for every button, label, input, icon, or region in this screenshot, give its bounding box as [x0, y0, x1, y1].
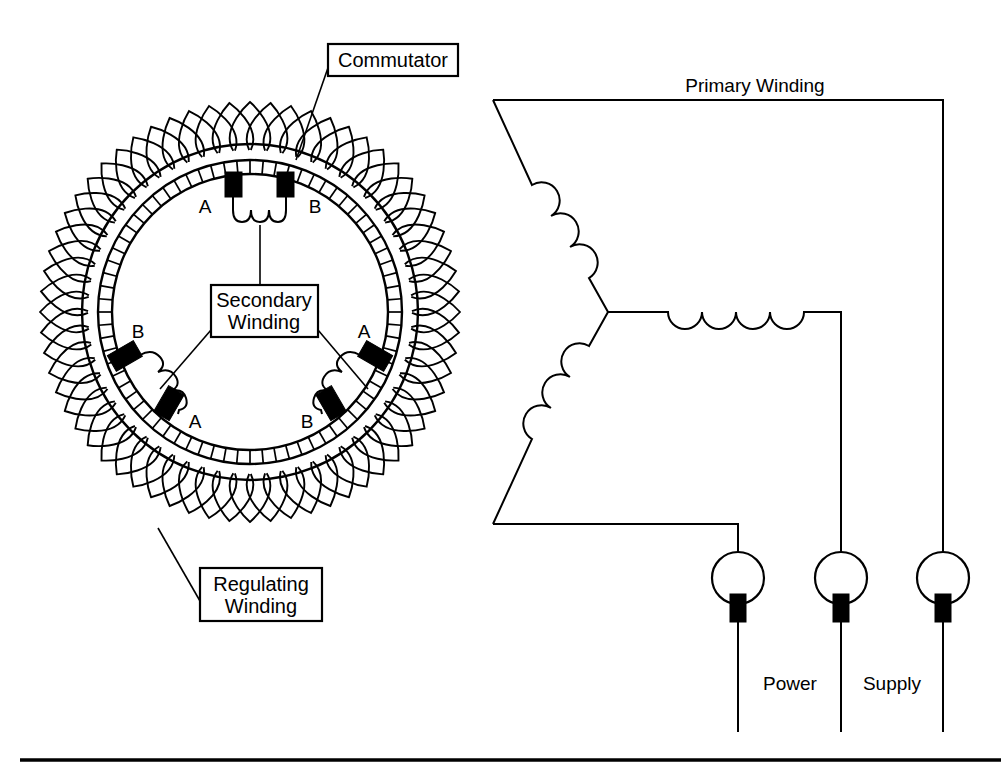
regulating-winding-loop [101, 414, 147, 460]
commutator-segment-tick [356, 214, 367, 223]
winding-arm-upper-left [493, 100, 608, 312]
commutator-segment-tick [125, 225, 136, 233]
commutator-segment-tick [262, 449, 263, 463]
commutator-segment-tick [308, 437, 314, 450]
commutator-segment-tick [386, 336, 400, 338]
commutator-segment-tick [387, 324, 401, 325]
commutator-segment-tick [163, 425, 171, 436]
commutator-segment-tick [274, 448, 276, 462]
primary-bottom-bus [493, 524, 738, 552]
commutator-segment-tick [186, 174, 192, 187]
commutator-segment-tick [329, 187, 337, 198]
commutator-segment-tick [143, 410, 153, 420]
commutator-segment-tick [375, 248, 388, 254]
commutator-segment-tick [363, 391, 374, 399]
commutator-segment-tick [356, 401, 367, 410]
leader-secondary-left [160, 330, 211, 389]
commutator-segment-tick [198, 169, 203, 182]
commutator-segment-tick [319, 180, 326, 192]
terminal-right [917, 552, 969, 732]
commutator-label: Commutator [338, 49, 448, 71]
commutator-segment-tick [387, 299, 401, 300]
commutator-segment-tick [143, 205, 153, 215]
regulating-winding-loop [352, 163, 398, 209]
label-box-commutator: Commutator [328, 44, 458, 76]
commutator-segment-tick [348, 410, 358, 420]
commutator-segment-tick [211, 445, 215, 459]
regulating-winding-loop [352, 414, 398, 460]
commutator-segment-tick [103, 348, 117, 352]
regulating-winding-loop [101, 163, 147, 209]
commutator-segment-tick [329, 425, 337, 436]
commutator-segment-tick [112, 248, 125, 254]
primary-top-bus [493, 100, 943, 552]
secondary-label-line1: Secondary [216, 289, 312, 311]
schematic-svg: A B B A A B Commutator [0, 0, 1001, 774]
terminal-middle-block [833, 594, 849, 622]
commutator-segment-tick [118, 381, 130, 388]
supply-label: Supply [863, 673, 922, 694]
commutator-segment-tick [286, 445, 290, 459]
brush-letter-lr-b: B [301, 411, 314, 432]
commutator-segment-tick [174, 432, 181, 444]
commutator-segment-tick [211, 165, 215, 179]
commutator-segment-tick [107, 260, 120, 265]
winding-arm-lower-left [493, 312, 608, 524]
commutator-segment-tick [174, 180, 181, 192]
commutator-segment-tick [125, 391, 136, 399]
brush-letter-ll-b: B [132, 321, 145, 342]
commutator-segment-tick [100, 336, 114, 338]
commutator-segment-tick [103, 273, 117, 277]
commutator-segment-tick [297, 442, 302, 455]
regulating-label-line1: Regulating [213, 573, 309, 595]
commutator-segment-tick [370, 381, 382, 388]
brush-block-lr-a [358, 341, 393, 372]
primary-winding-label: Primary Winding [685, 75, 824, 96]
commutator-segment-tick [118, 236, 130, 243]
commutator-segment-tick [339, 418, 348, 429]
commutator-segment-tick [380, 260, 393, 265]
terminal-left [712, 552, 764, 732]
brush-letter-top-b: B [309, 196, 322, 217]
commutator-segment-tick [198, 442, 203, 455]
commutator-segment-tick [186, 437, 192, 450]
commutator-segment-tick [308, 174, 314, 187]
commutator-segment-tick [99, 324, 113, 325]
commutator-segment-tick [363, 225, 374, 233]
winding-arm-horizontal [608, 312, 841, 552]
commutator-segment-tick [134, 214, 145, 223]
commutator-segment-tick [112, 370, 125, 376]
commutator-segment-tick [134, 401, 145, 410]
secondary-coil-top [233, 197, 286, 222]
regulating-label-line2: Winding [225, 595, 297, 617]
commutator-segment-tick [339, 196, 348, 207]
commutator-segment-tick [100, 286, 114, 288]
commutator-segment-tick [370, 236, 382, 243]
diagram-canvas: A B B A A B Commutator [0, 0, 1001, 774]
commutator-segment-tick [383, 348, 397, 352]
label-box-secondary-winding: Secondary Winding [211, 285, 318, 337]
brush-letter-ll-a: A [189, 411, 202, 432]
brush-letter-top-a: A [199, 196, 212, 217]
commutator-segment-tick [274, 162, 276, 176]
commutator-segment-tick [319, 432, 326, 444]
brush-block-ll-b [107, 341, 142, 372]
brush-block-top-a [225, 172, 242, 197]
commutator-segment-tick [152, 196, 161, 207]
commutator-segment-tick [152, 418, 161, 429]
commutator-segment-tick [386, 286, 400, 288]
brush-group-top: A B [199, 172, 322, 222]
secondary-label-line2: Winding [228, 311, 300, 333]
leader-commutator [296, 62, 330, 160]
terminal-right-block [935, 594, 951, 622]
leader-regulating [158, 528, 200, 601]
commutator-segment-tick [99, 299, 113, 300]
commutator-segment-tick [224, 448, 226, 462]
commutator-segment-tick [348, 205, 358, 215]
terminal-middle [815, 552, 867, 732]
primary-circuit: Primary Winding [493, 75, 943, 552]
terminal-left-block [730, 594, 746, 622]
power-label: Power [763, 673, 818, 694]
brush-letter-lr-a: A [358, 321, 371, 342]
brush-block-top-b [277, 172, 294, 197]
